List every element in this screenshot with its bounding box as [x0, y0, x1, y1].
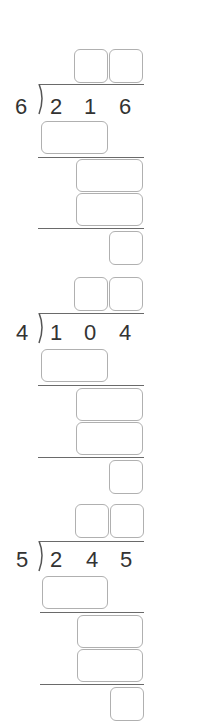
long-division-problem-2: 4 1 0 4 [0, 228, 208, 456]
quotient-ones-box[interactable] [109, 277, 143, 311]
quotient-ones-box[interactable] [109, 49, 143, 83]
dividend-digit-hundreds: 2 [46, 549, 66, 571]
dividend-digit-ones: 5 [116, 549, 136, 571]
first-remainder-box[interactable] [76, 388, 143, 421]
quotient-tens-box[interactable] [75, 504, 109, 538]
dividend-digit-ones: 4 [115, 322, 135, 344]
second-product-box[interactable] [77, 649, 143, 682]
divisor: 5 [12, 549, 32, 571]
dividend-digit-hundreds: 2 [46, 96, 66, 118]
dividend-digit-tens: 1 [80, 96, 100, 118]
long-division-problem-1: 6 2 1 6 [0, 0, 208, 228]
dividend-digit-hundreds: 1 [46, 322, 66, 344]
division-bar [40, 313, 144, 314]
second-product-box[interactable] [76, 193, 143, 226]
subtraction-line-1 [38, 157, 144, 158]
final-remainder-box[interactable] [110, 687, 144, 721]
dividend-digit-tens: 0 [80, 322, 100, 344]
second-product-box[interactable] [76, 422, 143, 455]
division-bracket-icon [36, 313, 46, 344]
division-bracket-icon [36, 541, 46, 572]
quotient-ones-box[interactable] [110, 504, 144, 538]
dividend-digit-ones: 6 [115, 96, 135, 118]
first-product-box[interactable] [41, 121, 108, 154]
quotient-tens-box[interactable] [74, 277, 108, 311]
dividend-digit-tens: 4 [82, 549, 102, 571]
subtraction-line-1 [40, 612, 144, 613]
long-division-problem-3: 5 2 4 5 [0, 455, 208, 683]
first-remainder-box[interactable] [76, 159, 143, 192]
division-bracket-icon [36, 84, 46, 115]
division-bar [40, 541, 144, 542]
first-remainder-box[interactable] [77, 615, 143, 648]
subtraction-line-1 [38, 385, 144, 386]
divisor: 4 [12, 322, 32, 344]
division-bar [40, 84, 144, 85]
quotient-tens-box[interactable] [74, 49, 108, 83]
subtraction-line-2 [40, 684, 144, 685]
divisor: 6 [11, 96, 31, 118]
first-product-box[interactable] [42, 576, 108, 609]
first-product-box[interactable] [41, 349, 108, 382]
